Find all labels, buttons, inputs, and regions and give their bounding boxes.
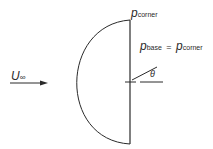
equals-sign: = (166, 42, 171, 52)
p-corner-symbol: p (176, 39, 183, 53)
p-symbol: p (131, 6, 138, 20)
u-symbol: U (11, 69, 20, 83)
angle-theta-label: θ (150, 69, 155, 79)
corner-subscript-rhs: corner (183, 44, 203, 51)
infinity-subscript: ∞ (20, 73, 26, 82)
corner-pressure-label: pcorner (131, 3, 158, 21)
base-subscript: base (147, 44, 162, 51)
body-curved-nose (77, 20, 130, 144)
p-base-symbol: p (140, 39, 147, 53)
freestream-arrowhead-icon (40, 81, 48, 86)
freestream-velocity-label: U∞ (11, 66, 25, 84)
diagram-canvas (0, 0, 213, 149)
base-pressure-equation: pbase = pcorner (140, 36, 203, 54)
corner-subscript: corner (138, 11, 158, 18)
